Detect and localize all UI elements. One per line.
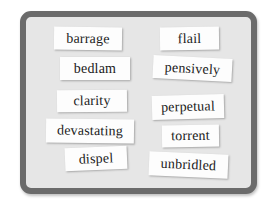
word-label: clarity <box>73 93 110 109</box>
word-label: bedlam <box>74 61 116 77</box>
word-label: barrage <box>66 30 110 47</box>
word-card-dispel[interactable]: dispel <box>65 146 128 172</box>
word-card-torrent[interactable]: torrent <box>162 125 219 148</box>
word-label: pensively <box>164 59 220 78</box>
word-label: unbridled <box>160 156 216 174</box>
word-card-perpetual[interactable]: perpetual <box>152 94 225 120</box>
word-label: flail <box>178 30 202 46</box>
word-card-bedlam[interactable]: bedlam <box>60 57 130 80</box>
word-label: perpetual <box>161 98 215 115</box>
word-card-pensively[interactable]: pensively <box>152 55 232 82</box>
word-label: torrent <box>171 128 210 145</box>
word-label: devastating <box>57 123 123 140</box>
word-card-devastating[interactable]: devastating <box>46 118 134 143</box>
word-card-unbridled[interactable]: unbridled <box>149 151 229 178</box>
word-card-barrage[interactable]: barrage <box>54 27 122 51</box>
word-label: dispel <box>78 150 113 167</box>
word-card-flail[interactable]: flail <box>160 27 219 51</box>
word-card-clarity[interactable]: clarity <box>57 90 127 113</box>
